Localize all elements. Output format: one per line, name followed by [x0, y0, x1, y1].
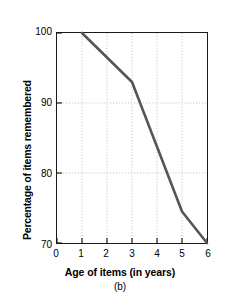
figure-caption: (b)	[0, 281, 240, 292]
x-axis-title: Age of items (in years)	[0, 266, 240, 278]
x-tick-label-4: 4	[147, 249, 167, 259]
y-tick-label-100: 100	[26, 27, 52, 37]
y-tick-label-90: 90	[26, 98, 52, 108]
x-tick-label-6: 6	[198, 249, 218, 259]
x-tick-label-3: 3	[122, 249, 142, 259]
x-tick-label-1: 1	[71, 249, 91, 259]
y-tick-label-80: 80	[26, 169, 52, 179]
x-tick-label-5: 5	[172, 249, 192, 259]
x-tick-label-0: 0	[46, 249, 66, 259]
plot-area	[56, 32, 208, 244]
data-line-series	[57, 33, 207, 243]
x-tick-label-2: 2	[96, 249, 116, 259]
figure-chart: Percentage of items remembered 100 90 80…	[0, 0, 240, 301]
